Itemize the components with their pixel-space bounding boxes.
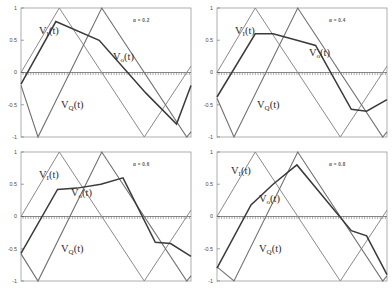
y-tick-label: 0 (210, 213, 213, 219)
alpha-annotation: α = 0.4 (329, 18, 346, 23)
y-tick-label: 0.5 (10, 37, 18, 43)
alpha-annotation: α = 0.2 (133, 18, 150, 23)
y-tick-label: 0.5 (10, 181, 18, 187)
y-tick-label: 0 (14, 69, 17, 75)
y-tick-label: -0.5 (204, 246, 213, 252)
y-tick-label: -1 (12, 278, 17, 284)
y-tick-label: 1 (210, 149, 213, 155)
plot-canvas: 10.50-0.5-1VI(t)Vo(t)VQ(t)α = 0.4 (196, 0, 392, 144)
y-tick-label: -0.5 (8, 102, 17, 108)
alpha-annotation: α = 0.8 (329, 162, 346, 167)
y-tick-label: 1 (210, 5, 213, 11)
y-tick-label: 0 (210, 69, 213, 75)
y-tick-label: -0.5 (204, 102, 213, 108)
y-tick-label: -0.5 (8, 246, 17, 252)
panel-alpha-08: 10.50-0.5-1VI(t)Vo(t)VQ(t)α = 0.8 (196, 144, 392, 288)
panel-alpha-02: 10.50-0.5-1VI(t)Vo(t)VQ(t)α = 0.2 (0, 0, 196, 144)
y-tick-label: -1 (208, 278, 213, 284)
panel-alpha-06: 10.50-0.5-1VI(t)Vo(t)VQ(t)α = 0.6 (0, 144, 196, 288)
y-tick-label: 1 (14, 149, 17, 155)
y-tick-label: 0.5 (206, 37, 214, 43)
y-tick-label: 0 (14, 213, 17, 219)
four-panel-waveform-figure: 10.50-0.5-1VI(t)Vo(t)VQ(t)α = 0.210.50-0… (0, 0, 392, 288)
alpha-annotation: α = 0.6 (133, 162, 150, 167)
y-tick-label: 0.5 (206, 181, 214, 187)
plot-canvas: 10.50-0.5-1VI(t)Vo(t)VQ(t)α = 0.6 (0, 144, 196, 288)
y-tick-label: 1 (14, 5, 17, 11)
panel-alpha-04: 10.50-0.5-1VI(t)Vo(t)VQ(t)α = 0.4 (196, 0, 392, 144)
plot-canvas: 10.50-0.5-1VI(t)Vo(t)VQ(t)α = 0.8 (196, 144, 392, 288)
y-tick-label: -1 (208, 134, 213, 140)
y-tick-label: -1 (12, 134, 17, 140)
plot-canvas: 10.50-0.5-1VI(t)Vo(t)VQ(t)α = 0.2 (0, 0, 196, 144)
